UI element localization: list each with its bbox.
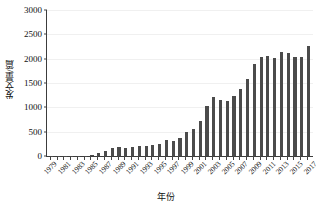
- bar-slot: [109, 10, 116, 156]
- bar-chart-figure: 发文量/篇 050010001500200025003000 197919811…: [0, 0, 318, 209]
- y-axis-tick-labels: 050010001500200025003000: [12, 10, 44, 156]
- bar: [165, 140, 168, 156]
- x-axis-tick-mark: [158, 156, 159, 160]
- x-axis-tick-mark: [63, 156, 64, 160]
- bar: [145, 146, 148, 157]
- bar-series: [47, 10, 313, 156]
- y-axis-tick-label: 2500: [24, 30, 42, 39]
- x-axis-tick-mark: [178, 156, 179, 160]
- x-axis-tick-mark: [104, 156, 105, 160]
- y-axis-tick-label: 1000: [24, 103, 42, 112]
- bar-slot: [89, 10, 96, 156]
- x-axis-tick-mark: [293, 156, 294, 160]
- bar: [239, 89, 242, 156]
- x-axis-tick-mark: [300, 156, 301, 160]
- bar: [192, 129, 195, 156]
- bar: [131, 147, 134, 156]
- bar-slot: [271, 10, 278, 156]
- bar-slot: [95, 10, 102, 156]
- bar-slot: [136, 10, 143, 156]
- bar-slot: [68, 10, 75, 156]
- bar-slot: [190, 10, 197, 156]
- bar: [158, 144, 161, 156]
- bar: [185, 132, 188, 156]
- bar-slot: [48, 10, 55, 156]
- x-axis-tick-mark: [266, 156, 267, 160]
- x-axis-tick-mark: [97, 156, 98, 160]
- x-axis-tick-mark: [280, 156, 281, 160]
- bar-slot: [285, 10, 292, 156]
- x-axis-tick-mark: [192, 156, 193, 160]
- bar: [266, 56, 269, 156]
- bar-slot: [244, 10, 251, 156]
- x-axis-tick-label: 2017: [302, 160, 318, 176]
- bar: [273, 58, 276, 156]
- bar: [219, 100, 222, 156]
- x-axis-tick-mark: [124, 156, 125, 160]
- x-axis-tick-mark: [90, 156, 91, 160]
- bar-slot: [278, 10, 285, 156]
- bar-slot: [292, 10, 299, 156]
- bar: [280, 52, 283, 156]
- x-axis-tick-mark: [260, 156, 261, 160]
- bar-slot: [129, 10, 136, 156]
- plot-area: [46, 10, 313, 157]
- y-axis-tick-label: 3000: [24, 6, 42, 15]
- x-axis-tick-mark: [246, 156, 247, 160]
- x-axis-tick-mark: [77, 156, 78, 160]
- x-axis-tick-mark: [226, 156, 227, 160]
- bar-slot: [231, 10, 238, 156]
- bar: [199, 121, 202, 156]
- bar-slot: [251, 10, 258, 156]
- bar-slot: [75, 10, 82, 156]
- bar-slot: [237, 10, 244, 156]
- bar: [300, 57, 303, 156]
- bar: [232, 96, 235, 156]
- x-axis-title: 年份: [0, 190, 318, 203]
- x-axis-tick-mark: [307, 156, 308, 160]
- bar: [212, 97, 215, 156]
- bar-slot: [156, 10, 163, 156]
- y-axis-tick-label: 500: [29, 127, 43, 136]
- x-axis-tick-mark: [118, 156, 119, 160]
- x-axis-tick-mark: [151, 156, 152, 160]
- y-axis-tick-label: 0: [38, 152, 43, 161]
- bar-slot: [102, 10, 109, 156]
- bar-slot: [82, 10, 89, 156]
- bar-slot: [197, 10, 204, 156]
- x-axis-tick-mark: [287, 156, 288, 160]
- bar: [246, 79, 249, 156]
- x-axis-tick-mark: [138, 156, 139, 160]
- x-axis-tick-mark: [233, 156, 234, 160]
- bar: [111, 148, 114, 156]
- x-axis-tick-mark: [172, 156, 173, 160]
- bar-slot: [217, 10, 224, 156]
- x-axis-tick-labels: 1979198119831985198719891991199319951997…: [46, 160, 312, 194]
- bar: [117, 147, 120, 156]
- bar-slot: [210, 10, 217, 156]
- x-axis-tick-mark: [145, 156, 146, 160]
- bar-slot: [177, 10, 184, 156]
- bar-slot: [183, 10, 190, 156]
- bar-slot: [163, 10, 170, 156]
- x-axis-tick-mark: [84, 156, 85, 160]
- x-axis-title-text: 年份: [157, 190, 175, 203]
- bar: [287, 53, 290, 156]
- x-axis-tick-mark: [205, 156, 206, 160]
- bar-slot: [143, 10, 150, 156]
- bar-slot: [224, 10, 231, 156]
- bar: [260, 57, 263, 156]
- x-axis-tick-mark: [57, 156, 58, 160]
- bar: [205, 106, 208, 156]
- bar-slot: [170, 10, 177, 156]
- x-axis-tick-mark: [131, 156, 132, 160]
- bar-slot: [298, 10, 305, 156]
- bar: [138, 146, 141, 156]
- bar: [307, 46, 310, 156]
- x-axis-tick-mark: [111, 156, 112, 160]
- x-axis-tick-mark: [212, 156, 213, 160]
- x-axis-tick-mark: [219, 156, 220, 160]
- bar: [172, 141, 175, 156]
- bar: [253, 64, 256, 156]
- bar-slot: [149, 10, 156, 156]
